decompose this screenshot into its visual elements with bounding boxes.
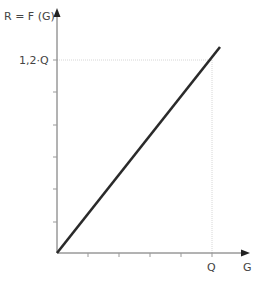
y-mark-label: 1,2·Q bbox=[19, 54, 49, 67]
y-axis-label: R = F (G) bbox=[4, 10, 55, 23]
y-ticks bbox=[53, 60, 57, 222]
x-axis-label: G bbox=[243, 261, 252, 274]
x-mark-label: Q bbox=[207, 261, 216, 274]
chart: R = F (G) 1,2·Q Q G bbox=[0, 0, 267, 286]
x-ticks bbox=[88, 253, 212, 257]
x-axis-arrow-icon bbox=[241, 250, 250, 257]
series-line bbox=[57, 47, 220, 253]
